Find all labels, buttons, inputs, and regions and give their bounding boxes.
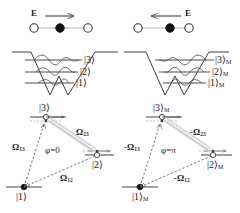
- omega-23-sub: 23: [200, 131, 206, 137]
- scheme-right-state-1-ket: |1⟩: [132, 191, 143, 202]
- physics-figure: E E |3⟩ |2⟩ |1⟩ |3⟩M |2⟩M |1⟩M |3⟩ |2⟩ |…: [0, 0, 240, 213]
- well-right-level-1-ket: |1⟩: [208, 77, 219, 88]
- well-right-level-2-sub: M: [223, 71, 228, 77]
- atom-open-right: [185, 24, 193, 32]
- scheme-left-coupling-13: Ω13: [12, 143, 25, 153]
- atom-open-left: [30, 24, 38, 32]
- atom-open-right: [84, 24, 92, 32]
- state-3-dot: [161, 120, 164, 123]
- scheme-right-state-3-label: |3⟩M: [153, 103, 169, 113]
- well-left-level-3: |3⟩: [84, 55, 95, 65]
- well-right-level-3: |3⟩M: [215, 55, 231, 65]
- scheme-right-state-2-label: |2⟩M: [207, 160, 223, 170]
- potential-well-left: [12, 52, 118, 95]
- omega-12-sub: 12: [184, 177, 190, 183]
- atom-filled-center: [56, 24, 64, 32]
- scheme-right-coupling-13: -Ω13: [124, 143, 140, 153]
- state-3-dot: [45, 120, 48, 123]
- atom-filled-center: [166, 24, 174, 32]
- scheme-right-coupling-23: -Ω23: [190, 128, 206, 138]
- omega-13-sub: 13: [134, 146, 140, 152]
- well-left-level-1: |1⟩: [76, 78, 87, 88]
- scheme-right-coupling-12: -Ω12: [174, 174, 190, 184]
- scheme-right-state-1-sub: M: [143, 196, 148, 202]
- omega-23-symbol: -Ω: [190, 127, 200, 137]
- well-left-level-2: |2⟩: [80, 67, 91, 77]
- top-right-molecule: [134, 16, 193, 32]
- figure-canvas: [0, 0, 240, 213]
- atom-open-left: [134, 24, 142, 32]
- omega-12-symbol: -Ω: [174, 173, 184, 183]
- well-right-level-3-ket: |3⟩: [215, 54, 226, 65]
- well-right-level-1: |1⟩M: [208, 78, 224, 88]
- scheme-left-coupling-12: Ω12: [60, 174, 73, 184]
- scheme-right-state-2-ket: |2⟩: [207, 159, 218, 170]
- scheme-right-state-3-ket: |3⟩: [153, 102, 164, 113]
- well-right-level-2: |2⟩M: [212, 67, 228, 77]
- omega-13-sub: 13: [19, 146, 25, 152]
- scheme-right-phase: φ=π: [161, 146, 176, 155]
- well-right-level-2-ket: |2⟩: [212, 66, 223, 77]
- omega-13-symbol: -Ω: [124, 142, 134, 152]
- field-label-right: E: [185, 9, 191, 18]
- well-right-level-3-sub: M: [226, 59, 231, 65]
- well-right-level-1-sub: M: [219, 82, 224, 88]
- scheme-right-state-2-sub: M: [218, 164, 223, 170]
- scheme-right-state-3-sub: M: [164, 107, 169, 113]
- scheme-left-state-1-label: |1⟩: [16, 192, 27, 202]
- scheme-left-state-3-label: |3⟩: [39, 103, 50, 113]
- state-2-population-marker: [94, 152, 99, 157]
- scheme-right-state-1-label: |1⟩M: [132, 192, 148, 202]
- top-left-molecule: [30, 16, 92, 32]
- omega-12-sub: 12: [67, 177, 73, 183]
- scheme-left-state-2-label: |2⟩: [92, 160, 103, 170]
- state-2-population-marker: [210, 152, 215, 157]
- omega-23-sub: 23: [83, 131, 89, 137]
- scheme-left-phase: φ=0: [45, 146, 60, 155]
- scheme-left-coupling-23: Ω23: [76, 128, 89, 138]
- field-label-left: E: [31, 9, 37, 18]
